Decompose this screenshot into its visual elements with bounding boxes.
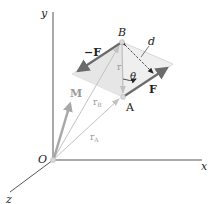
neg-force-label: −F xyxy=(84,46,101,59)
point-A xyxy=(121,95,126,100)
moment-arrow xyxy=(54,104,70,158)
moment-label: M xyxy=(70,87,82,100)
rA-label: rA xyxy=(90,132,99,143)
point-B-label: B xyxy=(117,26,126,39)
rB-vector xyxy=(53,46,119,160)
point-A-label: A xyxy=(125,101,135,114)
point-B xyxy=(120,40,125,45)
y-axis-label: y xyxy=(40,7,48,20)
angle-label: θ xyxy=(130,70,136,81)
r-label: r xyxy=(117,62,122,72)
point-O xyxy=(51,158,56,163)
distance-label: d xyxy=(148,35,155,48)
force-label: F xyxy=(149,83,157,96)
rB-label: rB xyxy=(93,97,102,108)
x-axis-label: x xyxy=(201,160,208,173)
origin-label: O xyxy=(38,153,47,166)
couple-moment-diagram: y x z O B A −F F M r rB rA d θ xyxy=(0,0,217,204)
z-axis-label: z xyxy=(5,193,12,204)
